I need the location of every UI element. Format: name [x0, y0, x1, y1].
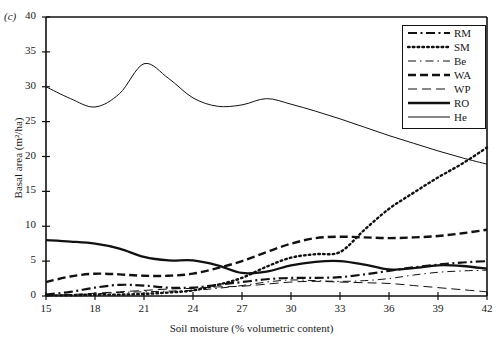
- legend-line-icon-Be: [407, 55, 451, 67]
- series-line-RO: [46, 240, 487, 273]
- y-tick-label-15: 15: [14, 183, 36, 195]
- y-tick-label-25: 25: [14, 114, 36, 126]
- legend-label-RM: RM: [451, 27, 471, 39]
- legend-line-icon-WA: [407, 69, 451, 81]
- x-tick-label-15: 15: [33, 302, 59, 314]
- legend-line-icon-SM: [407, 41, 451, 53]
- legend-label-He: He: [451, 111, 467, 123]
- y-tick-label-10: 10: [14, 218, 36, 230]
- x-tick-label-42: 42: [474, 302, 500, 314]
- legend-label-WP: WP: [451, 83, 471, 95]
- x-tick-label-21: 21: [131, 302, 157, 314]
- legend-label-SM: SM: [451, 41, 470, 53]
- y-tick-label-40: 40: [14, 9, 36, 21]
- legend-line-icon-RM: [407, 27, 451, 39]
- legend-line-icon-RO: [407, 97, 451, 109]
- y-tick-label-30: 30: [14, 79, 36, 91]
- legend-item-WP[interactable]: WP: [403, 82, 485, 96]
- legend-item-He[interactable]: He: [403, 110, 485, 124]
- legend-line-icon-He: [407, 111, 451, 123]
- legend-item-WA[interactable]: WA: [403, 68, 485, 82]
- legend-item-SM[interactable]: SM: [403, 40, 485, 54]
- y-tick-label-20: 20: [14, 149, 36, 161]
- legend-item-RM[interactable]: RM: [403, 26, 485, 40]
- legend-label-RO: RO: [451, 97, 469, 109]
- series-line-WP: [46, 281, 487, 295]
- legend-line-icon-WP: [407, 83, 451, 95]
- x-tick-label-24: 24: [180, 302, 206, 314]
- x-tick-label-18: 18: [82, 302, 108, 314]
- legend-label-WA: WA: [451, 69, 471, 81]
- chart-legend: RMSMBeWAWPROHe: [402, 25, 486, 129]
- legend-item-Be[interactable]: Be: [403, 54, 485, 68]
- y-tick-label-0: 0: [14, 288, 36, 300]
- x-tick-label-27: 27: [229, 302, 255, 314]
- series-line-WA: [46, 230, 487, 282]
- legend-label-Be: Be: [451, 55, 466, 67]
- legend-item-RO[interactable]: RO: [403, 96, 485, 110]
- y-tick-label-35: 35: [14, 44, 36, 56]
- x-tick-label-39: 39: [425, 302, 451, 314]
- x-tick-label-30: 30: [278, 302, 304, 314]
- y-tick-label-5: 5: [14, 253, 36, 265]
- figure-panel-c: (c) Basal area (m²/ha) Soil moisture (% …: [0, 0, 503, 344]
- x-tick-label-36: 36: [376, 302, 402, 314]
- x-tick-label-33: 33: [327, 302, 353, 314]
